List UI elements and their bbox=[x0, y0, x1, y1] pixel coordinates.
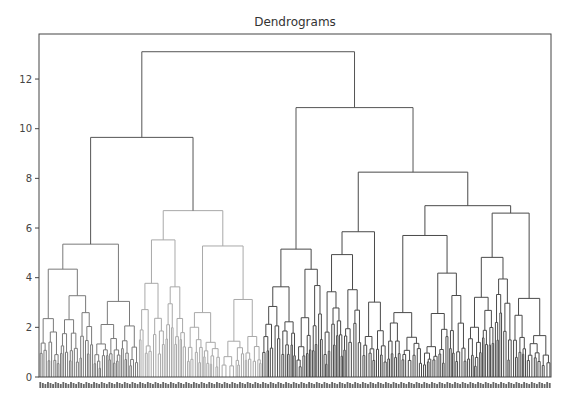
dendrogram-link bbox=[249, 359, 251, 377]
dendrogram-link bbox=[54, 360, 56, 377]
leaf-label bbox=[326, 383, 328, 388]
dendrogram-link bbox=[312, 351, 314, 377]
leaf-label bbox=[490, 384, 492, 388]
leaf-label bbox=[103, 383, 105, 388]
dendrogram-link bbox=[87, 354, 89, 377]
leaf-label bbox=[226, 383, 228, 388]
dendrogram-link bbox=[403, 235, 447, 312]
dendrogram-link bbox=[230, 366, 234, 377]
y-tick-label: 0 bbox=[26, 372, 32, 383]
chart-title: Dendrograms bbox=[254, 15, 336, 29]
leaf-label bbox=[324, 382, 326, 388]
dendrogram-link bbox=[132, 347, 136, 362]
dendrogram-link bbox=[470, 327, 478, 342]
dendrogram-link bbox=[342, 232, 374, 302]
dendrogram-link bbox=[183, 347, 185, 377]
dendrogram-link bbox=[283, 331, 287, 354]
dendrogram-link bbox=[489, 345, 490, 377]
dendrogram-link bbox=[315, 345, 317, 377]
dendrogram-link bbox=[130, 366, 132, 377]
leaf-label bbox=[423, 382, 425, 388]
leaf-label bbox=[254, 382, 256, 388]
leaf-label bbox=[39, 382, 41, 388]
leaf-label bbox=[75, 384, 77, 388]
leaf-label bbox=[139, 382, 141, 388]
leaf-label bbox=[372, 383, 374, 388]
dendrogram-link bbox=[492, 343, 493, 377]
dendrogram-link bbox=[438, 273, 457, 313]
dendrogram-link bbox=[328, 351, 330, 377]
dendrogram-link bbox=[427, 347, 435, 357]
leaf-label bbox=[295, 383, 297, 388]
dendrogram-link bbox=[190, 327, 198, 347]
dendrogram-link bbox=[369, 302, 381, 336]
dendrogram-link bbox=[480, 353, 481, 377]
leaf-label bbox=[93, 382, 95, 388]
dendrogram-link bbox=[162, 345, 164, 377]
leaf-label bbox=[237, 384, 239, 388]
dendrogram-link bbox=[530, 344, 537, 356]
leaf-label bbox=[482, 384, 484, 388]
leaf-label bbox=[50, 383, 52, 388]
leaf-label bbox=[449, 383, 451, 388]
dendrogram-link bbox=[519, 352, 521, 377]
leaf-label bbox=[267, 384, 269, 388]
dendrogram-link bbox=[446, 337, 448, 377]
leaf-label bbox=[239, 382, 241, 388]
dendrogram-link bbox=[74, 348, 77, 377]
leaf-label bbox=[129, 384, 131, 388]
dendrogram-link bbox=[210, 364, 211, 377]
leaf-label bbox=[111, 383, 113, 388]
dendrogram-link bbox=[453, 353, 455, 377]
y-tick-label: 8 bbox=[26, 173, 32, 184]
dendrogram-link bbox=[166, 339, 168, 377]
leaf-label bbox=[390, 384, 392, 388]
dendrogram-link bbox=[528, 355, 532, 377]
leaf-label bbox=[375, 384, 377, 388]
leaf-label bbox=[85, 382, 87, 388]
dendrogram-link bbox=[103, 350, 107, 356]
dendrogram-link bbox=[425, 206, 511, 236]
leaf-label bbox=[211, 383, 213, 388]
leaf-label bbox=[183, 384, 185, 388]
dendrogram-link bbox=[354, 323, 356, 377]
leaf-label bbox=[277, 382, 279, 388]
leaf-label bbox=[546, 382, 548, 388]
leaf-label bbox=[498, 384, 500, 388]
leaf-label bbox=[395, 383, 397, 388]
dendrogram-link bbox=[222, 365, 226, 377]
leaf-label bbox=[242, 383, 244, 388]
dendrogram-link bbox=[388, 359, 390, 377]
leaf-label bbox=[160, 384, 162, 388]
dendrogram-link bbox=[94, 364, 95, 377]
dendrogram-link bbox=[117, 361, 118, 377]
dendrogram-link bbox=[260, 363, 261, 377]
leaf-label bbox=[421, 384, 423, 388]
dendrogram-link bbox=[332, 255, 353, 292]
dendrogram-link bbox=[273, 287, 289, 322]
leaf-label bbox=[285, 382, 287, 388]
dendrogram-link bbox=[224, 357, 232, 366]
leaf-label bbox=[106, 384, 108, 388]
leaf-label bbox=[98, 384, 100, 388]
leaf-label bbox=[73, 383, 75, 388]
leaf-label bbox=[393, 382, 395, 388]
leaf-label bbox=[365, 383, 367, 388]
dendrogram-link bbox=[109, 360, 110, 377]
dendrogram-link bbox=[394, 313, 412, 338]
dendrogram-link bbox=[48, 269, 77, 318]
leaf-label bbox=[313, 384, 315, 388]
dendrogram-link bbox=[204, 357, 205, 377]
dendrogram-link bbox=[303, 356, 305, 377]
dendrogram-link bbox=[431, 314, 444, 347]
dendrogram-link bbox=[158, 354, 160, 377]
leaf-label bbox=[298, 384, 300, 388]
leaf-label bbox=[306, 384, 308, 388]
leaf-label bbox=[446, 382, 448, 388]
leaf-label bbox=[454, 382, 456, 388]
dendrogram-link bbox=[373, 360, 375, 377]
dendrogram-link bbox=[543, 355, 548, 365]
dendrogram-link bbox=[291, 345, 292, 377]
leaf-label bbox=[444, 384, 446, 388]
leaf-label bbox=[201, 382, 203, 388]
